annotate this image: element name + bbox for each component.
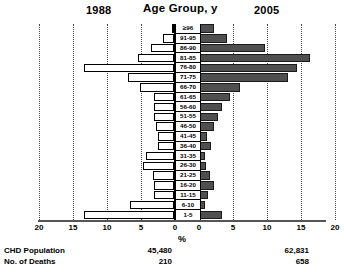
age-group-label: 61-65: [180, 94, 196, 100]
x-tick-right-5: 5: [222, 223, 244, 232]
age-group-label: 36-40: [180, 143, 196, 149]
bar-2005-≥96: [200, 24, 214, 32]
bar-2005-46-50: [200, 122, 214, 130]
footer-value-chd-population-2005: 62,831: [249, 246, 309, 255]
bar-row-2005: [0, 151, 336, 161]
footer-value-chd-population-1988: 45,480: [112, 246, 172, 255]
age-group-label: ≥96: [183, 25, 193, 31]
bar-row-2005: [0, 191, 336, 201]
x-axis-unit-label: %: [178, 234, 186, 244]
bar-2005-41-45: [200, 132, 207, 140]
bar-2005-56-60: [200, 103, 222, 111]
x-axis-baseline: [38, 220, 326, 222]
age-group-row: 66-70: [176, 83, 200, 93]
x-tick-right-0: 0: [188, 223, 210, 232]
x-tick-right-15: 15: [290, 223, 312, 232]
footer-value-no-of-deaths-2005: 658: [249, 257, 309, 266]
age-group-row: 36-40: [176, 142, 200, 152]
bar-row-2005: [0, 132, 336, 142]
age-group-label: 81-85: [180, 55, 196, 61]
chart-title-age-group: Age Group, y: [143, 2, 218, 14]
bar-2005-21-25: [200, 171, 210, 179]
bar-2005-81-85: [200, 54, 310, 62]
bar-row-2005: [0, 53, 336, 63]
age-group-label: 91-95: [180, 35, 196, 41]
bar-row-2005: [0, 73, 336, 83]
bar-2005-11-15: [200, 191, 208, 199]
x-tick-left-10: 10: [96, 223, 118, 232]
bar-2005-66-70: [200, 83, 240, 91]
bar-row-2005: [0, 161, 336, 171]
chart-legend-left-1988: 1988: [86, 4, 111, 16]
age-group-row: 86-90: [176, 44, 200, 54]
bar-row-2005: [0, 93, 336, 103]
age-group-label: 41-45: [180, 133, 196, 139]
age-group-label: 71-75: [180, 74, 196, 80]
age-group-row: 26-30: [176, 161, 200, 171]
bar-2005-76-80: [200, 64, 297, 72]
age-group-row: 1-5: [176, 210, 200, 220]
footer-label-chd-population: CHD Population: [4, 246, 65, 255]
age-group-label: 6-10: [182, 202, 194, 208]
x-tick-left-15: 15: [62, 223, 84, 232]
bar-2005-91-95: [200, 34, 227, 42]
bar-row-2005: [0, 34, 336, 44]
bar-row-2005: [0, 181, 336, 191]
bar-row-2005: [0, 210, 336, 220]
age-group-label: 86-90: [180, 45, 196, 51]
x-tick-right-10: 10: [256, 223, 278, 232]
bar-row-2005: [0, 83, 336, 93]
age-group-row: 71-75: [176, 73, 200, 83]
bar-row-2005: [0, 122, 336, 132]
age-group-row: 41-45: [176, 132, 200, 142]
bar-row-2005: [0, 63, 336, 73]
age-group-row: 91-95: [176, 34, 200, 44]
x-tick-right-20: 20: [324, 223, 344, 232]
chart-legend-right-2005: 2005: [254, 4, 279, 16]
age-group-label: 1-5: [184, 212, 193, 218]
age-group-label: 66-70: [180, 84, 196, 90]
bar-row-2005: [0, 171, 336, 181]
age-group-label: 21-25: [180, 172, 196, 178]
age-group-row: 56-60: [176, 102, 200, 112]
bar-row-2005: [0, 102, 336, 112]
age-group-label: 56-60: [180, 104, 196, 110]
x-tick-left-20: 20: [28, 223, 50, 232]
bar-row-2005: [0, 200, 336, 210]
x-tick-left-5: 5: [130, 223, 152, 232]
age-group-row: 81-85: [176, 53, 200, 63]
age-group-row: ≥96: [176, 24, 200, 34]
footer-value-no-of-deaths-1988: 210: [112, 257, 172, 266]
x-tick-left-0: 0: [164, 223, 186, 232]
plot-area: [0, 24, 336, 220]
age-group-label: 31-35: [180, 153, 196, 159]
age-group-row: 46-50: [176, 122, 200, 132]
bar-row-2005: [0, 44, 336, 54]
age-group-row: 11-15: [176, 191, 200, 201]
bar-2005-61-65: [200, 93, 230, 101]
age-group-row: 6-10: [176, 200, 200, 210]
bar-2005-71-75: [200, 73, 288, 81]
age-group-row: 51-55: [176, 112, 200, 122]
age-group-label: 26-30: [180, 162, 196, 168]
bar-2005-16-20: [200, 181, 214, 189]
bar-row-2005: [0, 24, 336, 34]
age-group-label: 76-80: [180, 64, 196, 70]
bar-2005-1-5: [200, 211, 222, 219]
bar-row-2005: [0, 142, 336, 152]
age-group-row: 76-80: [176, 63, 200, 73]
age-group-row: 61-65: [176, 93, 200, 103]
age-group-label: 11-15: [180, 192, 195, 198]
footer-label-no-of-deaths: No. of Deaths: [4, 257, 56, 266]
bar-2005-36-40: [200, 142, 211, 150]
age-group-label: 51-55: [180, 113, 196, 119]
bar-2005-51-55: [200, 113, 218, 121]
age-group-label: 46-50: [180, 123, 196, 129]
age-group-row: 21-25: [176, 171, 200, 181]
age-group-label: 16-20: [180, 182, 196, 188]
bar-2005-86-90: [200, 44, 265, 52]
bar-row-2005: [0, 112, 336, 122]
age-group-labels: ≥9691-9586-9081-8576-8071-7566-7061-6556…: [175, 24, 201, 220]
age-group-row: 31-35: [176, 151, 200, 161]
